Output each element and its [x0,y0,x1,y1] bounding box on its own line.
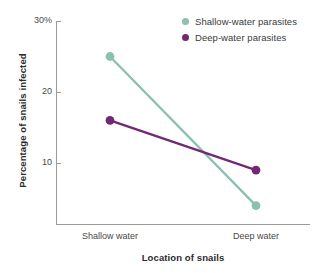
series-deep-water-parasites [106,116,261,175]
legend-item-deep-water-parasites[interactable]: Deep-water parasites [182,29,297,45]
data-point[interactable] [252,166,261,175]
legend-label: Shallow-water parasites [195,16,297,27]
legend-marker-circle-icon [182,18,189,25]
series-shallow-water-parasites [106,52,261,210]
legend-item-shallow-water-parasites[interactable]: Shallow-water parasites [182,13,297,29]
data-point[interactable] [106,52,115,61]
data-point[interactable] [106,116,115,125]
legend-label: Deep-water parasites [195,32,286,43]
legend-marker-circle-icon [182,34,189,41]
line-chart: Percentage of snails infected 30% 20 10 … [0,0,324,273]
data-point[interactable] [252,201,261,210]
series-line [110,120,256,170]
legend: Shallow-water parasites Deep-water paras… [182,13,297,45]
series-line [110,57,256,206]
